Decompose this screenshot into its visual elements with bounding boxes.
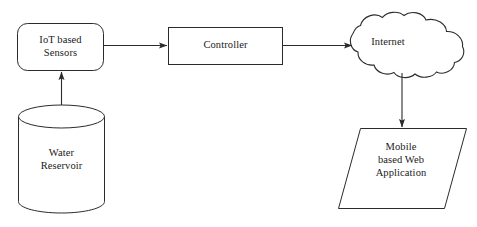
node-shape-mobile-app[interactable] (339, 129, 467, 209)
diagram-canvas: IoT based Sensors Controller Internet Wa… (0, 0, 477, 227)
diagram-vector-layer (0, 0, 477, 227)
node-shape-water-reservoir-body[interactable] (19, 117, 105, 214)
node-shape-controller[interactable] (169, 28, 283, 65)
node-shape-iot-sensors[interactable] (18, 24, 104, 71)
node-shape-internet[interactable] (350, 12, 463, 77)
node-shape-water-reservoir-top[interactable] (19, 105, 105, 128)
